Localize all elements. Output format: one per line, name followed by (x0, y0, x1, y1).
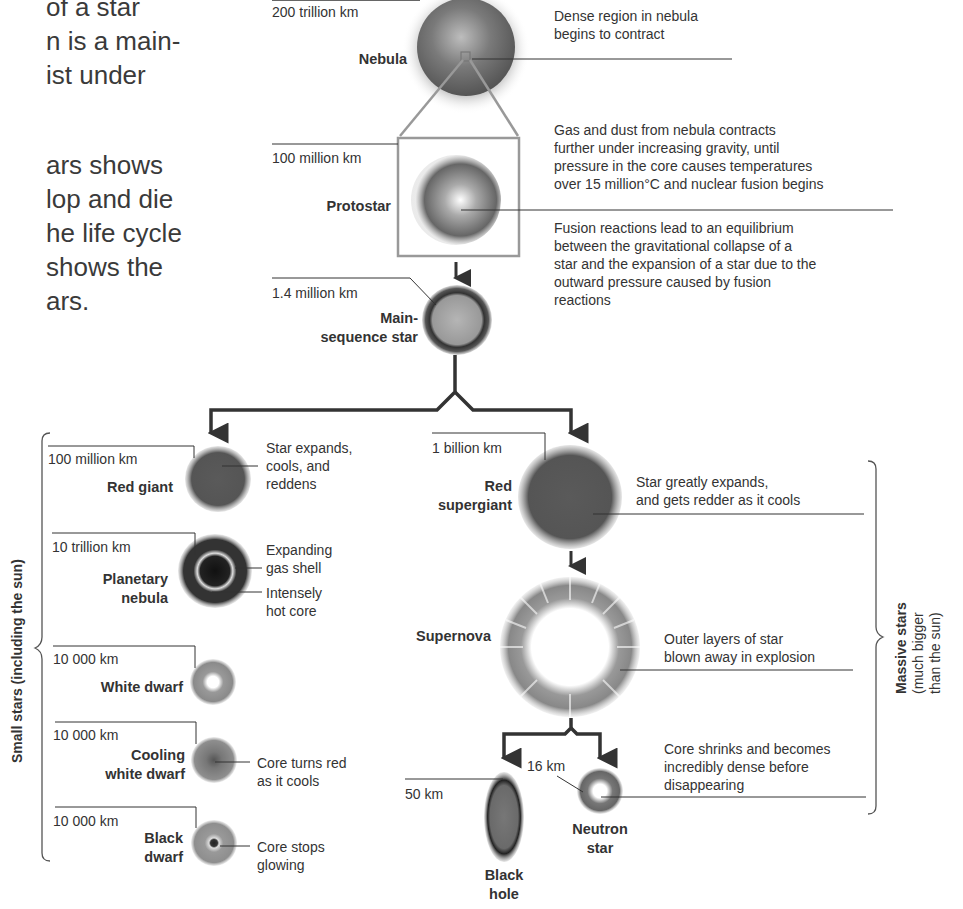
red-giant-name-label: Red giant (60, 478, 173, 497)
planetary-nebula-shell-label: Expanding gas shell (266, 541, 332, 577)
supernova-name-label: Supernova (380, 627, 491, 646)
planetary-nebula-star-icon (178, 534, 252, 608)
red-supergiant-size-label: 1 billion km (432, 440, 502, 457)
main-sequence-size-label: 1.4 million km (272, 285, 358, 302)
main-sequence-description: Fusion reactions lead to an equilibrium … (554, 219, 816, 309)
nebula-size-label: 200 trillion km (272, 4, 358, 21)
red-giant-description: Star expands, cools, and reddens (266, 439, 352, 493)
neutron-star-size-label: 16 km (527, 758, 565, 775)
cooling-white-dwarf-description: Core turns red as it cools (257, 754, 346, 790)
black-dwarf-size-label: 10 000 km (53, 813, 118, 830)
red-supergiant-star-icon (518, 445, 622, 549)
planetary-nebula-core-label: Intensely hot core (266, 584, 322, 620)
nebula-name-label: Nebula (300, 50, 407, 69)
main-sequence-star-icon (422, 285, 492, 355)
cooling-white-dwarf-size-label: 10 000 km (53, 727, 118, 744)
supernova-description: Outer layers of star blown away in explo… (664, 630, 815, 666)
small-stars-group-label: Small stars (including the sun) (8, 559, 27, 763)
cooling-white-dwarf-name-label: Cooling white dwarf (60, 746, 185, 784)
protostar-size-label: 100 million km (272, 150, 361, 167)
protostar-description: Gas and dust from nebula contracts furth… (554, 121, 823, 193)
white-dwarf-star-icon (190, 659, 236, 705)
black-hole-name-label: Black hole (474, 866, 534, 904)
neutron-star-description: Core shrinks and becomes incredibly dens… (664, 740, 831, 794)
black-dwarf-name-label: Black dwarf (60, 829, 183, 867)
red-supergiant-description: Star greatly expands, and gets redder as… (636, 473, 800, 509)
white-dwarf-name-label: White dwarf (60, 678, 183, 697)
neutron-star-name-label: Neutron star (565, 820, 635, 858)
massive-stars-group-label: Massive stars (much bigger than the sun) (893, 602, 944, 694)
nebula-star-icon (402, 0, 530, 114)
nebula-description: Dense region in nebula begins to contrac… (554, 7, 698, 43)
protostar-star-icon (411, 155, 501, 245)
black-dwarf-star-icon (191, 820, 237, 866)
supernova-star-icon (500, 577, 640, 717)
main-sequence-name-label: Main- sequence star (280, 309, 418, 347)
black-hole-icon (484, 772, 524, 862)
red-giant-size-label: 100 million km (48, 451, 137, 468)
planetary-nebula-name-label: Planetary nebula (60, 570, 168, 608)
black-hole-size-label: 50 km (405, 786, 443, 803)
planetary-nebula-size-label: 10 trillion km (52, 539, 131, 556)
cooling-white-dwarf-star-icon (191, 737, 237, 783)
protostar-name-label: Protostar (300, 197, 391, 216)
black-dwarf-description: Core stops glowing (257, 838, 325, 874)
neutron-star-icon (577, 768, 623, 814)
white-dwarf-size-label: 10 000 km (53, 651, 118, 668)
red-supergiant-name-label: Red supergiant (400, 477, 512, 515)
red-giant-star-icon (185, 446, 251, 512)
